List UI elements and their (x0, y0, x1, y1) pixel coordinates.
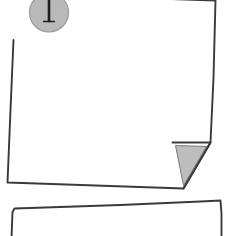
paper-note-illustration (0, 0, 228, 236)
push-pin-group (30, 0, 69, 32)
illustration-canvas (0, 0, 228, 236)
